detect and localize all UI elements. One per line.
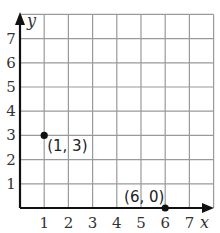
x-tick-label: 1: [39, 214, 49, 232]
y-axis-label: y: [26, 11, 37, 30]
y-tick-label: 7: [6, 30, 16, 48]
x-tick-label: 2: [64, 214, 74, 232]
x-tick-label: 3: [88, 214, 98, 232]
y-tick-label: 1: [6, 175, 16, 193]
x-tick-label: 6: [160, 214, 170, 232]
point-label: (6, 0): [124, 188, 164, 206]
y-tick-label: 5: [6, 78, 16, 96]
x-axis-arrow-icon: [202, 203, 214, 213]
coordinate-plane: x y 1234567 1234567 (1, 3)(6, 0): [0, 0, 220, 233]
x-tick-label: 5: [136, 214, 146, 232]
y-tick-label: 3: [6, 126, 16, 144]
y-tick-label: 4: [6, 102, 16, 120]
x-tick-label: 4: [112, 214, 122, 232]
x-tick-labels: 1234567: [39, 214, 194, 232]
y-tick-label: 2: [6, 151, 16, 169]
y-tick-labels: 1234567: [6, 30, 16, 193]
data-points: (1, 3)(6, 0): [41, 132, 169, 212]
x-tick-label: 7: [185, 214, 195, 232]
axes: x y: [15, 11, 214, 232]
point-label: (1, 3): [47, 137, 87, 155]
grid-lines: [20, 14, 214, 208]
y-tick-label: 6: [6, 54, 16, 72]
x-axis-label: x: [200, 213, 209, 232]
